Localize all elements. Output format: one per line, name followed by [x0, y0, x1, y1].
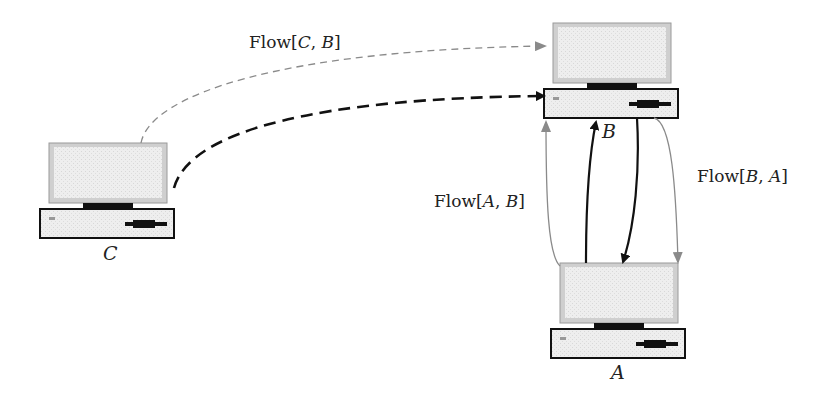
flow-label-source: A: [483, 191, 495, 211]
computer-b: [544, 23, 678, 118]
diagram-svg: [0, 0, 831, 394]
edge-flow-a-b-gray: [546, 122, 560, 266]
diagram-canvas: C B A Flow[C, B] Flow[A, B] Flow[B, A]: [0, 0, 831, 394]
flow-label-suffix: ]: [781, 166, 788, 186]
edge-flow-a-b-black: [586, 122, 596, 263]
node-label-b: B: [602, 120, 616, 142]
flow-label-c-b: Flow[C, B]: [249, 32, 341, 52]
flow-label-prefix: Flow[: [249, 32, 298, 52]
node-label-c: C: [103, 242, 118, 264]
flow-label-prefix: Flow[: [434, 191, 483, 211]
edge-flow-b-a-black: [623, 118, 638, 262]
flow-label-prefix: Flow[: [697, 166, 746, 186]
flow-label-target: B: [321, 32, 334, 52]
edge-flow-c-b-black: [174, 96, 544, 188]
flow-label-a-b: Flow[A, B]: [434, 191, 525, 211]
computer-c: [40, 143, 174, 238]
flow-label-target: A: [769, 166, 781, 186]
flow-label-sep: ,: [495, 191, 506, 211]
flow-label-source: B: [746, 166, 759, 186]
node-label-a: A: [611, 361, 625, 383]
edge-flow-b-a-gray: [654, 118, 678, 262]
flow-label-suffix: ]: [518, 191, 525, 211]
flow-label-suffix: ]: [334, 32, 341, 52]
computer-a: [551, 263, 685, 358]
edge-flow-c-b-gray: [141, 46, 545, 143]
flow-label-sep: ,: [311, 32, 322, 52]
flow-label-sep: ,: [758, 166, 769, 186]
flow-label-target: B: [506, 191, 519, 211]
flow-label-b-a: Flow[B, A]: [697, 166, 788, 186]
flow-label-source: C: [298, 32, 311, 52]
